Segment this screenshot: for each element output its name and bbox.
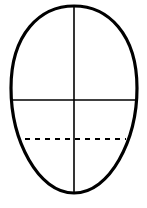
face-proportion-diagram [0,0,147,208]
egg-face-guide-svg [0,0,147,208]
